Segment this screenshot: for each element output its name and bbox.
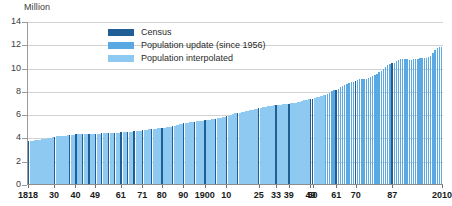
bar [312, 99, 313, 184]
bar [359, 79, 360, 184]
bar [439, 47, 440, 184]
x-tick-label: 1818 [18, 190, 38, 200]
x-tick-mark [336, 185, 337, 188]
bar [406, 59, 407, 184]
x-tick-label: 71 [137, 190, 147, 200]
bar [426, 58, 427, 184]
bar [258, 108, 259, 184]
x-tick-label: 80 [157, 190, 167, 200]
x-tick-label: 61 [116, 190, 126, 200]
bar [340, 87, 341, 184]
bar [101, 133, 102, 184]
x-tick-label: 50 [308, 190, 318, 200]
bar [381, 71, 382, 184]
x-tick-mark [392, 185, 393, 188]
bar [394, 63, 395, 185]
bar [409, 60, 410, 185]
x-tick-mark [310, 185, 311, 188]
bar [338, 89, 339, 184]
x-tick-mark [54, 185, 55, 188]
bar [348, 83, 349, 184]
x-tick-label: 25 [254, 190, 264, 200]
x-tick-label: 30 [49, 190, 59, 200]
x-tick-mark [356, 185, 357, 188]
bar [413, 59, 414, 184]
bar [215, 119, 216, 184]
x-tick-mark [259, 185, 260, 188]
x-tick-mark [289, 185, 290, 188]
bar [120, 132, 121, 184]
legend-swatch-interpolated [108, 55, 134, 62]
bar [376, 74, 377, 184]
bar [430, 56, 431, 184]
bar [108, 133, 109, 184]
bar [424, 58, 425, 184]
bar [355, 81, 356, 184]
bar [428, 57, 429, 184]
bar [432, 53, 433, 184]
bar [75, 134, 76, 184]
bar [353, 82, 354, 184]
x-tick-mark [205, 185, 206, 188]
x-tick-mark [28, 185, 29, 188]
bar [396, 61, 397, 184]
bar [275, 105, 276, 184]
bar [331, 91, 332, 184]
bar [389, 64, 390, 184]
bar [327, 94, 328, 184]
x-tick-label: 1900 [195, 190, 215, 200]
legend-swatch-update [108, 42, 134, 49]
bar [387, 65, 388, 184]
bar [194, 122, 195, 184]
bar [288, 104, 289, 184]
bar [411, 60, 412, 184]
y-tick-label: 4 [4, 132, 21, 142]
x-tick-label: 87 [387, 190, 397, 200]
bar [88, 134, 89, 184]
bar [437, 48, 438, 184]
bar [82, 134, 83, 184]
x-tick-label: 70 [351, 190, 361, 200]
x-tick-label: 39 [284, 190, 294, 200]
chart-legend: Census Population update (since 1956) Po… [108, 27, 266, 64]
y-tick-label: 6 [4, 109, 21, 119]
y-tick-label: 12 [4, 39, 21, 49]
x-tick-mark [75, 185, 76, 188]
x-tick-label: 90 [178, 190, 188, 200]
x-axis-labels: 1818304049617180901900102533394950617087… [27, 190, 443, 204]
bar [370, 77, 371, 184]
x-tick-label: 33 [271, 190, 281, 200]
bar [161, 128, 162, 184]
bar [172, 126, 173, 184]
bar [127, 132, 128, 184]
bar [183, 123, 184, 184]
x-tick-label: 10 [221, 190, 231, 200]
bar [368, 78, 369, 184]
y-tick-label: 8 [4, 86, 21, 96]
bar [363, 79, 364, 184]
bar [335, 90, 336, 184]
bar [391, 63, 392, 184]
bar [204, 120, 205, 184]
bar [378, 72, 379, 184]
bar [28, 141, 29, 184]
bar [434, 50, 435, 184]
bar [402, 59, 403, 184]
x-tick-mark [95, 185, 96, 188]
x-tick-label: 61 [331, 190, 341, 200]
bar [415, 59, 416, 184]
legend-item-census: Census [108, 27, 266, 38]
bar [361, 79, 362, 184]
bar [421, 58, 422, 184]
bar [351, 82, 352, 184]
bar [333, 90, 334, 184]
legend-item-update: Population update (since 1956) [108, 40, 266, 51]
bar [346, 84, 347, 184]
legend-label-census: Census [141, 27, 172, 38]
bar [114, 133, 115, 184]
x-tick-mark [276, 185, 277, 188]
bar [374, 75, 375, 184]
bar [237, 113, 238, 184]
bar [400, 59, 401, 184]
